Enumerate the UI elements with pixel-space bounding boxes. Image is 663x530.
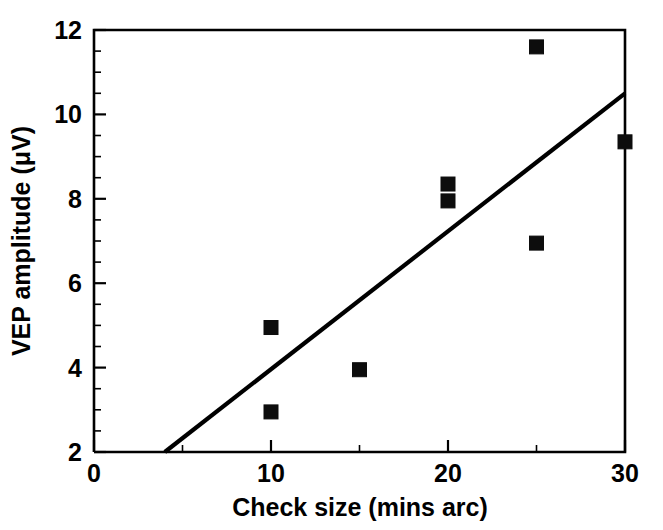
y-axis-tick-labels: 24681012 [54,16,82,466]
plot-frame [94,30,625,452]
y-tick-label: 8 [68,185,82,213]
data-point-marker [441,177,455,191]
data-point-marker [618,135,632,149]
x-axis-tick-labels: 0102030 [87,459,639,487]
data-point-marker [530,236,544,250]
regression-line [165,93,625,452]
figure-container: 0102030 24681012 Check size (mins arc) V… [0,0,663,530]
y-tick-label: 10 [54,100,82,128]
data-point-marker [353,363,367,377]
data-point-marker [264,405,278,419]
x-tick-label: 0 [87,459,101,487]
y-tick-label: 12 [54,16,82,44]
scatter-plot: 0102030 24681012 Check size (mins arc) V… [0,0,663,530]
regression-line-segment [165,93,625,452]
y-axis-title: VEP amplitude (μV) [7,126,35,356]
y-tick-label: 2 [68,438,82,466]
x-tick-label: 10 [257,459,285,487]
x-axis-title: Check size (mins arc) [232,493,488,521]
y-tick-label: 6 [68,269,82,297]
data-point-marker [441,194,455,208]
data-point-marker [530,40,544,54]
data-point-marker [264,321,278,335]
x-tick-label: 20 [434,459,462,487]
x-tick-label: 30 [611,459,639,487]
y-tick-label: 4 [68,354,82,382]
plot-box-outline [94,30,625,452]
